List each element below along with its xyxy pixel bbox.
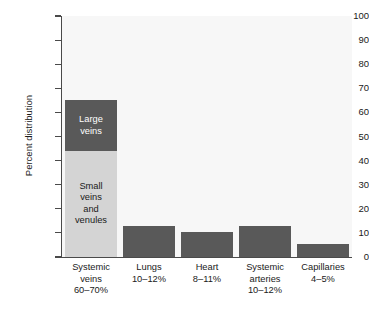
bar-segment (297, 244, 349, 257)
y-axis-tick-label: 80 (323, 59, 369, 68)
x-axis-label-line: arteries (236, 274, 294, 286)
y-axis-line (61, 16, 62, 258)
bar-segment-label: Largeveins (65, 114, 117, 137)
x-axis-label-line: 8–11% (178, 274, 236, 286)
y-axis-tick (55, 64, 61, 65)
x-axis-label-line: Capillaries (294, 262, 352, 274)
y-axis-tick-label: 40 (323, 156, 369, 165)
bar-segment-label: Smallveinsandvenules (65, 181, 117, 227)
y-axis-tick (55, 208, 61, 209)
x-axis-label: Capillaries4–5% (294, 262, 352, 285)
x-axis-label-line: Systemic (62, 262, 120, 274)
x-axis-label-line: 4–5% (294, 274, 352, 286)
bar-segment (123, 226, 175, 257)
y-axis-tick (55, 136, 61, 137)
bar-segment-label-line: veins (65, 192, 117, 204)
y-axis-tick-label: 90 (323, 35, 369, 44)
bar (297, 244, 349, 257)
bar-segment (239, 226, 291, 257)
y-axis-tick (55, 232, 61, 233)
x-axis-label-line: 10–12% (236, 285, 294, 297)
bar-chart-figure: Percent distribution 1009080706050403020… (0, 0, 369, 313)
y-axis-tick-label: 30 (323, 180, 369, 189)
y-axis-tick-label: 50 (323, 132, 369, 141)
bar-segment-label-line: Large (65, 114, 117, 126)
bar-segment-label-line: and (65, 204, 117, 216)
x-axis-label: Systemicarteries10–12% (236, 262, 294, 297)
bar (123, 226, 175, 257)
bar-segment: Largeveins (65, 100, 117, 151)
x-axis-label-line: 60–70% (62, 285, 120, 297)
x-axis-label-line: Systemic (236, 262, 294, 274)
x-axis-label-line: Heart (178, 262, 236, 274)
y-axis-tick-label: 60 (323, 107, 369, 116)
x-axis-label: Lungs10–12% (120, 262, 178, 285)
y-axis-tick (55, 184, 61, 185)
bar-segment: Smallveinsandvenules (65, 151, 117, 257)
y-axis-tick (55, 88, 61, 89)
y-axis-tick-label: 10 (323, 228, 369, 237)
y-axis-tick (55, 15, 61, 16)
y-axis-tick-label: 100 (323, 11, 369, 20)
x-axis-line (61, 257, 352, 258)
bar: SmallveinsandvenulesLargeveins (65, 100, 117, 257)
y-axis-tick (55, 112, 61, 113)
x-axis-label-line: veins (62, 274, 120, 286)
bar (239, 226, 291, 257)
bar-segment-label-line: venules (65, 215, 117, 227)
x-axis-label-line: 10–12% (120, 274, 178, 286)
bar-segment-label-line: Small (65, 181, 117, 193)
y-axis-title: Percent distribution (23, 46, 34, 226)
y-axis-tick (55, 256, 61, 257)
bar-segment (181, 232, 233, 257)
y-axis-tick-label: 70 (323, 83, 369, 92)
x-axis-label: Heart8–11% (178, 262, 236, 285)
x-axis-label-line: Lungs (120, 262, 178, 274)
y-axis-tick-label: 20 (323, 204, 369, 213)
y-axis-tick (55, 160, 61, 161)
x-axis-label: Systemicveins60–70% (62, 262, 120, 297)
y-axis-tick (55, 40, 61, 41)
bar-segment-label-line: veins (65, 126, 117, 138)
bar (181, 232, 233, 257)
